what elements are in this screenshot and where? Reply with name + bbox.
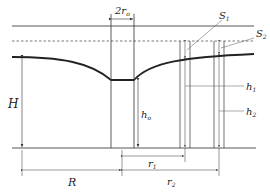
S1-leader: [187, 20, 222, 50]
S1-label: S1: [219, 10, 230, 22]
r1-label: r1: [148, 158, 157, 170]
R-label: R: [67, 176, 76, 189]
drawdown-curve: [12, 54, 254, 80]
S2-label: S2: [256, 28, 267, 40]
H-label: H: [7, 97, 19, 111]
well-diameter-label: 2ro: [114, 5, 130, 17]
well-drawdown-diagram: 2ro H ho S1 S2 h1 h2 r1 R r2: [0, 0, 270, 193]
S2-leader: [221, 38, 254, 48]
h2-label: h2: [246, 106, 256, 118]
h0-label: ho: [141, 109, 151, 121]
r2-label: r2: [167, 176, 176, 188]
h1-label: h1: [246, 81, 256, 93]
